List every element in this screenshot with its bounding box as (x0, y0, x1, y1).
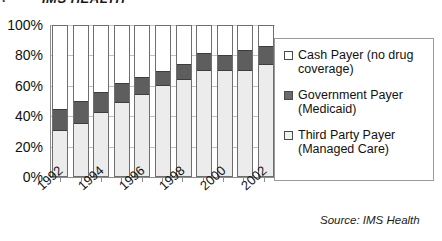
bar-segment-cash-payer (156, 26, 170, 71)
chart-legend: Cash Payer (no drug coverage)Government … (274, 38, 434, 181)
bar-segment-third-party-payer (218, 71, 232, 176)
y-axis-tick-label: 60% (15, 78, 43, 94)
bar-segment-cash-payer (177, 26, 191, 64)
bar[interactable] (196, 25, 212, 177)
bar-segment-cash-payer (197, 26, 211, 53)
bar-segment-cash-payer (74, 26, 88, 101)
bar-group (51, 25, 275, 177)
bar-segment-government-payer (135, 77, 149, 95)
bar[interactable] (73, 25, 89, 177)
government-swatch-icon (284, 91, 293, 100)
bar[interactable] (237, 25, 253, 177)
header-bullet-icon: · (2, 0, 6, 8)
bar[interactable] (114, 25, 130, 177)
bar-segment-government-payer (197, 53, 211, 71)
bar-segment-government-payer (74, 101, 88, 124)
bar-segment-third-party-payer (197, 71, 211, 176)
bar-segment-cash-payer (115, 26, 129, 83)
bar-segment-government-payer (238, 50, 252, 71)
bar-segment-third-party-payer (259, 65, 273, 176)
cash-swatch-icon (284, 51, 293, 60)
legend-item[interactable]: Government Payer (Medicaid) (284, 88, 426, 116)
bar-segment-cash-payer (218, 26, 232, 55)
y-axis-tick-label: 80% (15, 47, 43, 63)
y-axis-tick-label: 20% (15, 139, 43, 155)
stacked-bar-chart: 100%80%60%40%20%0% 199219941996199820002… (0, 12, 278, 241)
bar[interactable] (134, 25, 150, 177)
bar-segment-third-party-payer (156, 86, 170, 176)
bar[interactable] (176, 25, 192, 177)
legend-item[interactable]: Third Party Payer (Managed Care) (284, 128, 426, 156)
y-axis-tick-label: 40% (15, 108, 43, 124)
bar-segment-third-party-payer (115, 103, 129, 177)
bar-segment-government-payer (156, 71, 170, 86)
bar-segment-third-party-payer (177, 80, 191, 176)
legend-item-label: Government Payer (Medicaid) (298, 88, 426, 116)
source-note: Source: IMS Health (320, 214, 420, 226)
bar-segment-government-payer (115, 83, 129, 103)
bar-segment-government-payer (177, 64, 191, 81)
bar-segment-government-payer (218, 55, 232, 72)
legend-item-label: Cash Payer (no drug coverage) (298, 48, 426, 76)
bar-segment-cash-payer (259, 26, 273, 46)
bar[interactable] (217, 25, 233, 177)
header-strip: · IMS HEALTH (0, 0, 442, 11)
bar-segment-government-payer (53, 109, 67, 132)
bar-segment-cash-payer (238, 26, 252, 50)
bar-segment-cash-payer (94, 26, 108, 92)
bar[interactable] (155, 25, 171, 177)
bar-segment-cash-payer (135, 26, 149, 77)
legend-item-label: Third Party Payer (Managed Care) (298, 128, 426, 156)
page-title: IMS HEALTH (42, 0, 125, 6)
plot-area (50, 25, 275, 178)
bar-segment-cash-payer (53, 26, 67, 109)
bar[interactable] (258, 25, 274, 177)
bar-segment-third-party-payer (238, 71, 252, 176)
third-party-swatch-icon (284, 131, 293, 140)
legend-item[interactable]: Cash Payer (no drug coverage) (284, 48, 426, 76)
y-axis-labels: 100%80%60%40%20%0% (0, 25, 47, 177)
bar[interactable] (52, 25, 68, 177)
bar-segment-government-payer (259, 46, 273, 66)
y-axis-tick-label: 100% (7, 17, 43, 33)
bar[interactable] (93, 25, 109, 177)
bar-segment-government-payer (94, 92, 108, 113)
x-axis-labels: 199219941996199820002002 (50, 182, 280, 230)
bar-segment-third-party-payer (74, 124, 88, 177)
